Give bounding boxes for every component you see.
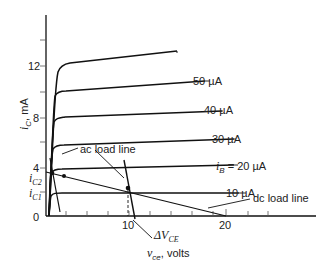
delta-vce-label: ΔVCE [154, 229, 179, 244]
ac-load-line-2 [50, 158, 60, 212]
curve-60ua [49, 51, 177, 216]
x-axis-title: vce, volts [147, 247, 190, 262]
ic1-label: iC1 [29, 187, 42, 202]
operating-point-3 [62, 174, 66, 178]
y-ticks [40, 40, 46, 192]
x-tick-10: 10 [122, 220, 134, 231]
x-tick-20: 20 [219, 220, 231, 231]
operating-point-2 [50, 171, 55, 176]
y-axis-title: iC, mA [17, 98, 33, 130]
dc-load-line [46, 172, 226, 216]
curve-label-40ua: 40 µA [204, 105, 233, 116]
curve-label-50ua: 50 µA [193, 76, 222, 87]
q-point [126, 186, 131, 191]
ac-load-line-label: ac load line [80, 144, 136, 155]
y-tick-0: 0 [33, 212, 39, 223]
curve-label-30ua: 30 µA [212, 134, 241, 145]
curve-20ua [49, 165, 234, 216]
y-tick-12: 12 [28, 61, 40, 72]
x-ticks [66, 209, 268, 216]
curve-30ua [49, 139, 234, 216]
y-tick-8: 8 [33, 113, 39, 124]
curve-40ua [49, 111, 222, 216]
curve-label-20ua: iB = 20 µA [216, 160, 266, 175]
curve-label-10ua: 10 µA [226, 188, 255, 199]
dc-load-line-label: dc load line [253, 193, 309, 204]
